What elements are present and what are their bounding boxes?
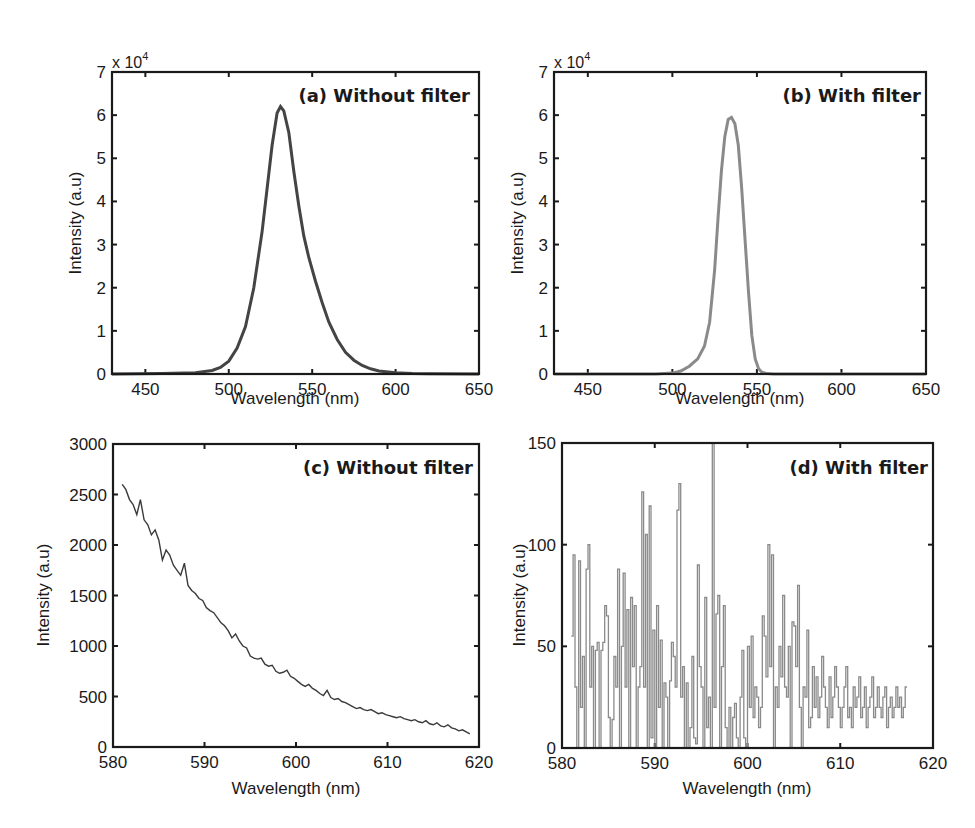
panel-b-title: (b) With filter: [782, 85, 921, 106]
y-tick-label: 3: [97, 236, 106, 255]
x-tick-label: 650: [912, 380, 940, 399]
panel-c-line: [122, 484, 470, 734]
panel-b-frame: [554, 72, 926, 374]
panel-c-xlabel: Wavelength (nm): [232, 779, 361, 798]
panel-a-exponent: x 104: [112, 50, 148, 71]
figure: x 104 (a) Without filter Wavelength (nm)…: [0, 0, 975, 828]
panel-c-frame: [113, 444, 479, 747]
x-tick-label: 600: [827, 380, 855, 399]
panel-d: (d) With filter Wavelength (nm) Intensit…: [510, 434, 947, 798]
x-tick-label: 650: [465, 380, 493, 399]
y-tick-label: 6: [97, 106, 106, 125]
panel-b-ticks: 45050055060065001234567: [539, 63, 941, 399]
panel-b-xlabel: Wavelength (nm): [676, 389, 805, 408]
x-tick-label: 620: [465, 753, 493, 772]
y-tick-label: 1: [539, 322, 548, 341]
y-tick-label: 2: [97, 279, 106, 298]
y-tick-label: 3000: [69, 435, 107, 454]
panel-a: x 104 (a) Without filter Wavelength (nm)…: [66, 50, 493, 408]
y-tick-label: 7: [97, 63, 106, 82]
y-tick-label: 0: [98, 738, 107, 757]
y-tick-label: 3: [539, 236, 548, 255]
y-tick-label: 5: [97, 149, 106, 168]
panel-d-ticks: 580590600610620050100150: [528, 434, 948, 773]
panel-d-title: (d) With filter: [789, 457, 928, 478]
panel-c-title: (c) Without filter: [303, 457, 473, 478]
panel-a-ticks: 45050055060065001234567: [97, 63, 494, 399]
x-tick-label: 590: [190, 753, 218, 772]
x-tick-label: 600: [282, 753, 310, 772]
x-tick-label: 590: [641, 754, 669, 773]
y-tick-label: 100: [528, 536, 556, 555]
panel-c-ylabel: Intensity (a.u): [34, 544, 53, 647]
panel-d-xlabel: Wavelength (nm): [683, 779, 812, 798]
y-tick-label: 7: [539, 63, 548, 82]
y-tick-label: 0: [539, 365, 548, 384]
panel-c: (c) Without filter Wavelength (nm) Inten…: [34, 435, 493, 798]
panel-b-ylabel: Intensity (a.u): [508, 172, 527, 275]
x-tick-label: 500: [215, 380, 243, 399]
y-tick-label: 1: [97, 322, 106, 341]
y-tick-label: 150: [528, 434, 556, 453]
panel-c-ticks: 580590600610620050010001500200025003000: [69, 435, 493, 772]
panel-a-ylabel: Intensity (a.u): [66, 172, 85, 275]
y-tick-label: 0: [547, 739, 556, 758]
x-tick-label: 550: [743, 380, 771, 399]
y-tick-label: 50: [537, 637, 556, 656]
y-tick-label: 500: [79, 688, 107, 707]
x-tick-label: 550: [298, 380, 326, 399]
y-tick-label: 4: [539, 192, 548, 211]
panel-d-ylabel: Intensity (a.u): [510, 544, 529, 647]
y-tick-label: 2: [539, 279, 548, 298]
panel-d-line: [571, 443, 907, 748]
x-tick-label: 610: [373, 753, 401, 772]
y-tick-label: 4: [97, 192, 106, 211]
y-tick-label: 2000: [69, 536, 107, 555]
y-tick-label: 1500: [69, 587, 107, 606]
panel-a-line: [112, 107, 479, 375]
panel-a-xlabel: Wavelength (nm): [231, 389, 360, 408]
panel-a-title: (a) Without filter: [298, 85, 470, 106]
y-tick-label: 0: [97, 365, 106, 384]
y-tick-label: 6: [539, 106, 548, 125]
x-tick-label: 450: [574, 380, 602, 399]
y-tick-label: 5: [539, 149, 548, 168]
panel-a-frame: [112, 72, 479, 374]
x-tick-label: 450: [131, 380, 159, 399]
y-tick-label: 1000: [69, 637, 107, 656]
x-tick-label: 610: [826, 754, 854, 773]
x-tick-label: 600: [733, 754, 761, 773]
y-tick-label: 2500: [69, 486, 107, 505]
x-tick-label: 620: [919, 754, 947, 773]
x-tick-label: 500: [658, 380, 686, 399]
panel-b-line: [554, 117, 926, 374]
panel-b-exponent: x 104: [554, 50, 590, 71]
x-tick-label: 600: [381, 380, 409, 399]
panel-b: x 104 (b) With filter Wavelength (nm) In…: [508, 50, 940, 408]
